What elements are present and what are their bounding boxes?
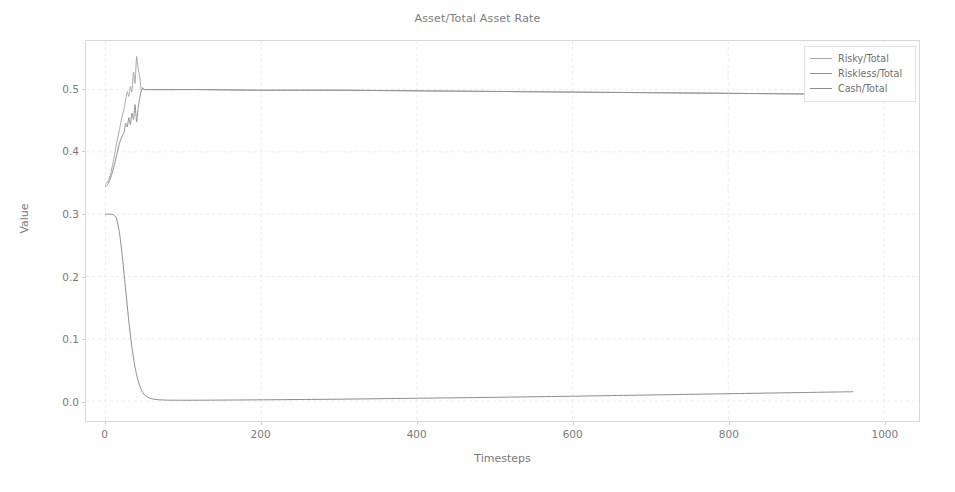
y-axis-tick-labels: 0.00.10.20.30.40.5 [33,40,79,422]
y-axis-label: Value [18,179,31,259]
y-tick-label: 0.4 [39,145,79,157]
legend-line-icon [810,58,832,59]
gridlines [86,41,919,421]
legend-label: Risky/Total [838,53,889,64]
y-tick-label: 0.2 [39,271,79,283]
legend-item-riskless-total: Riskless/Total [810,66,910,81]
chart-legend: Risky/Total Riskless/Total Cash/Total [804,46,916,102]
x-tick-label: 400 [387,428,447,440]
plot-canvas [86,41,919,421]
y-tick-label: 0.0 [39,396,79,408]
x-tick-mark [885,422,886,425]
chart-title: Asset/Total Asset Rate [0,12,955,25]
y-tick-label: 0.1 [39,333,79,345]
x-tick-label: 600 [543,428,603,440]
legend-line-icon [810,88,832,89]
legend-item-cash-total: Cash/Total [810,81,910,96]
x-tick-mark [573,422,574,425]
x-axis-label: Timesteps [85,452,920,465]
x-tick-mark [105,422,106,425]
x-tick-mark [729,422,730,425]
y-tick-label: 0.5 [39,83,79,95]
x-tick-mark [417,422,418,425]
y-tick-label: 0.3 [39,208,79,220]
x-tick-label: 0 [75,428,135,440]
plot-area [85,40,920,422]
x-axis-tick-marks [85,422,920,426]
chart-figure: Asset/Total Asset Rate Value Timesteps 0… [0,0,955,492]
legend-label: Cash/Total [838,83,887,94]
data-series-lines [105,56,884,400]
legend-label: Riskless/Total [838,68,902,79]
legend-line-icon [810,73,832,74]
x-tick-label: 1000 [855,428,915,440]
x-tick-label: 200 [231,428,291,440]
x-axis-tick-labels: 02004006008001000 [85,428,920,446]
x-tick-mark [261,422,262,425]
x-tick-label: 800 [699,428,759,440]
legend-item-risky-total: Risky/Total [810,51,910,66]
